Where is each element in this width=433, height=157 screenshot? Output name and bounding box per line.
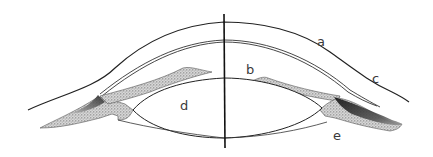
label-a: a	[317, 34, 325, 49]
left-ciliary-body	[40, 97, 133, 128]
label-c: c	[372, 71, 379, 86]
label-d: d	[180, 98, 188, 113]
eye-cross-section-diagram: a b c d e	[0, 0, 433, 157]
label-e: e	[333, 128, 341, 143]
vertical-axis-line	[224, 14, 225, 148]
label-b: b	[246, 62, 254, 77]
